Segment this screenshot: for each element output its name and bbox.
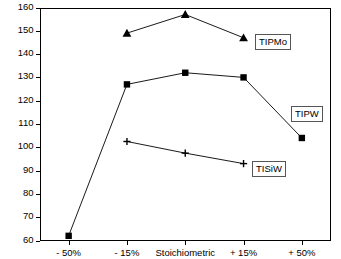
data-point-tipw bbox=[299, 135, 305, 141]
data-point-tisiw bbox=[240, 160, 247, 167]
data-point-tipmo bbox=[181, 10, 190, 18]
data-point-tipmo bbox=[239, 33, 248, 41]
data-point-tipw bbox=[182, 70, 188, 76]
series-label-tipw: TIPW bbox=[291, 106, 323, 122]
data-point-tipw bbox=[240, 74, 246, 80]
data-point-tipw bbox=[124, 81, 130, 87]
series-label-tipmo: TIPMo bbox=[255, 34, 291, 50]
data-point-tipw bbox=[65, 233, 71, 239]
data-point-tipmo bbox=[123, 29, 132, 37]
data-point-tisiw bbox=[182, 150, 189, 157]
chart-container: Surface Area (m2/g) 60708090100110120130… bbox=[0, 0, 341, 259]
data-point-tisiw bbox=[123, 138, 130, 145]
series-label-tisiw: TISiW bbox=[252, 161, 286, 177]
